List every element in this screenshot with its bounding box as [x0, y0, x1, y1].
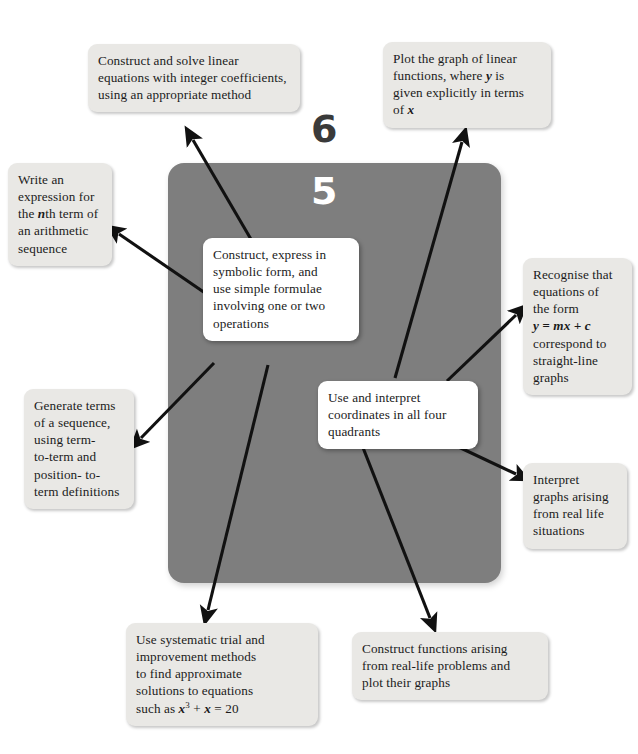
node-write-expression-nth-term[interactable]: Write an expression for the nth term of …	[8, 163, 112, 266]
node-line: given explicitly in terms	[393, 84, 542, 101]
node-use-interpret-coordinates[interactable]: Use and interpret coordinates in all fou…	[318, 381, 478, 449]
node-line: quadrants	[328, 423, 469, 440]
node-formula: y = mx + c	[533, 317, 623, 334]
node-line: equations of	[533, 283, 623, 300]
node-line: Write an	[18, 171, 103, 188]
node-line: Construct, express in	[213, 246, 350, 263]
node-line: symbolic form, and	[213, 263, 350, 280]
node-line: situations	[533, 522, 618, 539]
node-line: the form	[533, 300, 623, 317]
node-line: Construct and solve linear	[98, 52, 291, 69]
node-line: using term-	[34, 431, 125, 448]
node-line: of a sequence,	[34, 414, 125, 431]
node-line: using an appropriate method	[98, 86, 291, 103]
node-formula: such as x3 + x = 20	[136, 700, 309, 717]
node-generate-terms-of-sequence[interactable]: Generate terms of a sequence, using term…	[24, 389, 134, 509]
node-line: Plot the graph of linear	[393, 50, 542, 67]
node-line: Generate terms	[34, 397, 125, 414]
arrow-coordinates-to-plot-graph	[395, 142, 462, 378]
node-line: Recognise that	[533, 266, 623, 283]
diagram-canvas: 6 5 Construct and solve linear equations…	[0, 0, 638, 754]
node-line: Use systematic trial and	[136, 631, 309, 648]
node-systematic-trial-improvement[interactable]: Use systematic trial and improvement met…	[126, 623, 318, 726]
node-plot-graph-of-linear-functions[interactable]: Plot the graph of linear functions, wher…	[383, 42, 551, 128]
node-line: the nth term of	[18, 205, 103, 222]
arrow-symbolic-to-construct-solve	[193, 140, 252, 241]
arrow-coordinates-to-construct-fn	[360, 440, 430, 618]
arrow-symbolic-to-trial	[208, 365, 268, 610]
node-line: from real-life problems and	[362, 657, 539, 674]
node-line: Interpret	[533, 471, 618, 488]
node-line: correspond to	[533, 335, 623, 352]
node-line: term definitions	[34, 483, 125, 500]
node-line: operations	[213, 315, 350, 332]
node-construct-express-symbolic-form[interactable]: Construct, express in symbolic form, and…	[203, 238, 359, 341]
arrow-symbolic-to-nth-term	[119, 234, 208, 295]
arrow-symbolic-to-generate	[141, 363, 214, 438]
node-line: solutions to equations	[136, 682, 309, 699]
node-line: position- to-	[34, 466, 125, 483]
node-line: functions, where y is	[393, 67, 542, 84]
node-line: Use and interpret	[328, 389, 469, 406]
node-construct-functions-real-life[interactable]: Construct functions arising from real-li…	[352, 632, 548, 700]
node-line: to-term and	[34, 448, 125, 465]
node-construct-and-solve-linear-equations[interactable]: Construct and solve linear equations wit…	[88, 44, 300, 112]
node-line: graphs	[533, 369, 623, 386]
node-line: from real life	[533, 505, 618, 522]
node-recognise-equations-straight-line[interactable]: Recognise that equations of the form y =…	[523, 258, 632, 395]
node-line: sequence	[18, 240, 103, 257]
node-line: plot their graphs	[362, 674, 539, 691]
arrow-coordinates-to-recognise	[447, 315, 516, 381]
node-line: straight-line	[533, 352, 623, 369]
node-line: an arithmetic	[18, 222, 103, 239]
node-line: equations with integer coefficients,	[98, 69, 291, 86]
node-line: Construct functions arising	[362, 640, 539, 657]
node-line: involving one or two	[213, 297, 350, 314]
node-line: coordinates in all four	[328, 406, 469, 423]
node-line: graphs arising	[533, 488, 618, 505]
node-line: use simple formulae	[213, 280, 350, 297]
node-line: expression for	[18, 188, 103, 205]
node-line: to find approximate	[136, 665, 309, 682]
node-interpret-graphs-real-life[interactable]: Interpret graphs arising from real life …	[523, 463, 627, 549]
node-line: improvement methods	[136, 648, 309, 665]
node-line: of x	[393, 101, 542, 118]
